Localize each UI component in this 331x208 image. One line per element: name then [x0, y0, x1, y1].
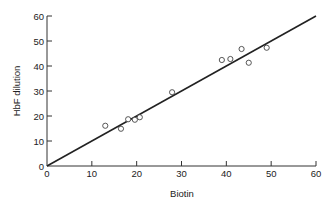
- x-axis-label: Biotin: [170, 188, 194, 199]
- x-tick-label: 10: [87, 168, 98, 179]
- data-point-marker: [264, 45, 269, 50]
- data-point-marker: [246, 60, 251, 65]
- x-axis-ticks: 0102030405060: [44, 161, 321, 179]
- y-tick-label: 50: [33, 36, 44, 47]
- y-axis-label: HbF dilution: [11, 66, 22, 117]
- x-tick-label: 0: [44, 168, 49, 179]
- y-tick-label: 60: [33, 11, 44, 22]
- y-tick-label: 40: [33, 61, 44, 72]
- y-axis-ticks: 0102030405060: [33, 11, 52, 172]
- data-point-marker: [239, 46, 244, 51]
- data-point-marker: [126, 117, 131, 122]
- y-tick-label: 30: [33, 86, 44, 97]
- data-point-marker: [118, 126, 123, 131]
- x-tick-label: 60: [311, 168, 322, 179]
- data-point-marker: [219, 57, 224, 62]
- data-point-marker: [103, 123, 108, 128]
- scatter-chart: 0102030405060 0102030405060 Biotin HbF d…: [0, 0, 331, 208]
- x-tick-label: 40: [221, 168, 232, 179]
- x-tick-label: 30: [176, 168, 187, 179]
- regression-line: [47, 16, 316, 166]
- x-tick-label: 20: [131, 168, 142, 179]
- data-point-marker: [228, 56, 233, 61]
- y-tick-label: 10: [33, 136, 44, 147]
- data-point-marker: [132, 117, 137, 122]
- data-point-marker: [137, 115, 142, 120]
- y-tick-label: 20: [33, 111, 44, 122]
- x-tick-label: 50: [266, 168, 277, 179]
- y-tick-label: 0: [39, 161, 44, 172]
- data-point-marker: [169, 90, 174, 95]
